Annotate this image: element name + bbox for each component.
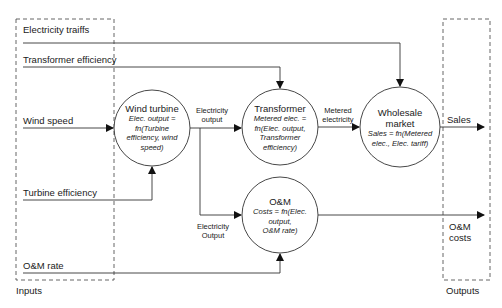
edge-label-electricity-output: Electricity output bbox=[192, 106, 232, 124]
wind-turbine-formula-line: fn(Turbine bbox=[114, 124, 190, 134]
om-formula-line: Costs = fn(Elec. bbox=[242, 207, 318, 217]
edge-label-line: Electricity bbox=[193, 222, 233, 231]
edge-label-line: Output bbox=[193, 231, 233, 240]
diagram-canvas bbox=[0, 0, 502, 308]
output-om-costs-line: costs bbox=[449, 232, 471, 243]
wholesale-formula-line: elec., Elec. tariff) bbox=[360, 139, 440, 149]
transformer-text: Transformer Metered elec. = fn(Elec. out… bbox=[242, 103, 318, 152]
output-om-costs: O&M costs bbox=[449, 221, 471, 243]
edge-label-line: Electricity bbox=[192, 106, 232, 115]
input-wind-speed: Wind speed bbox=[23, 115, 73, 126]
om-formula-line: output, bbox=[242, 217, 318, 227]
edge-label-metered-electricity: Metered electricity bbox=[316, 106, 360, 124]
wind-turbine-title: Wind turbine bbox=[114, 103, 190, 114]
input-turbine-efficiency: Turbine efficiency bbox=[23, 187, 97, 198]
outputs-group-label: Outputs bbox=[446, 285, 479, 296]
transformer-formula-line: fn(Elec. output, bbox=[242, 124, 318, 134]
edge-label-line: electricity bbox=[316, 115, 360, 124]
wind-turbine-formula-line: speed) bbox=[114, 143, 190, 153]
wholesale-title-line: Wholesale bbox=[360, 107, 440, 118]
om-text: O&M Costs = fn(Elec. output, O&M rate) bbox=[242, 196, 318, 236]
transformer-formula-line: Metered elec. = bbox=[242, 114, 318, 124]
input-om-rate: O&M rate bbox=[23, 260, 64, 271]
wind-turbine-formula-line: Elec. output = bbox=[114, 114, 190, 124]
wholesale-formula-line: Sales = fn(Metered bbox=[360, 129, 440, 139]
wind-turbine-formula-line: efficiency, wind bbox=[114, 133, 190, 143]
output-om-costs-line: O&M bbox=[449, 221, 471, 232]
wholesale-title-line: market bbox=[360, 118, 440, 129]
transformer-formula-line: efficiency) bbox=[242, 143, 318, 153]
om-formula-line: O&M rate) bbox=[242, 226, 318, 236]
transformer-title: Transformer bbox=[242, 103, 318, 114]
edge-label-line: output bbox=[192, 115, 232, 124]
edge-label-electricity-output-om: Electricity Output bbox=[193, 222, 233, 240]
transformer-formula-line: Transformer bbox=[242, 133, 318, 143]
edge-turbine-om bbox=[200, 128, 241, 215]
edge-label-line: Metered bbox=[316, 106, 360, 115]
om-title: O&M bbox=[242, 196, 318, 207]
input-transformer-efficiency: Transformer efficiency bbox=[23, 54, 116, 65]
wholesale-text: Wholesale market Sales = fn(Metered elec… bbox=[360, 107, 440, 148]
edge-transeff-transformer bbox=[23, 67, 280, 88]
inputs-group-label: Inputs bbox=[16, 285, 42, 296]
output-sales: Sales bbox=[447, 114, 471, 125]
input-electricity-tariffs: Electricity traiffs bbox=[23, 24, 89, 35]
wind-turbine-text: Wind turbine Elec. output = fn(Turbine e… bbox=[114, 103, 190, 152]
